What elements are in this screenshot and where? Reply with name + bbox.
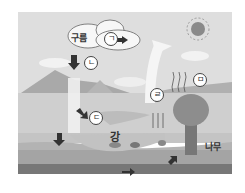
marker-c: ㄷ xyxy=(89,111,103,125)
marker-a: ㄱ xyxy=(104,32,118,46)
tree-label: 나무 xyxy=(205,140,221,153)
tree-trunk xyxy=(185,125,197,155)
fish-icon xyxy=(158,140,166,146)
sun-icon xyxy=(191,22,205,36)
marker-e: ㅁ xyxy=(193,73,207,87)
marker-b: ㄴ xyxy=(84,56,98,70)
marker-d: ㄹ xyxy=(150,88,164,102)
fish-icon xyxy=(130,142,140,148)
tree-canopy xyxy=(173,94,209,126)
river-label: 강 xyxy=(110,128,120,144)
water-cycle-illustration xyxy=(0,0,245,193)
cloud-label: 구름 xyxy=(71,31,87,44)
